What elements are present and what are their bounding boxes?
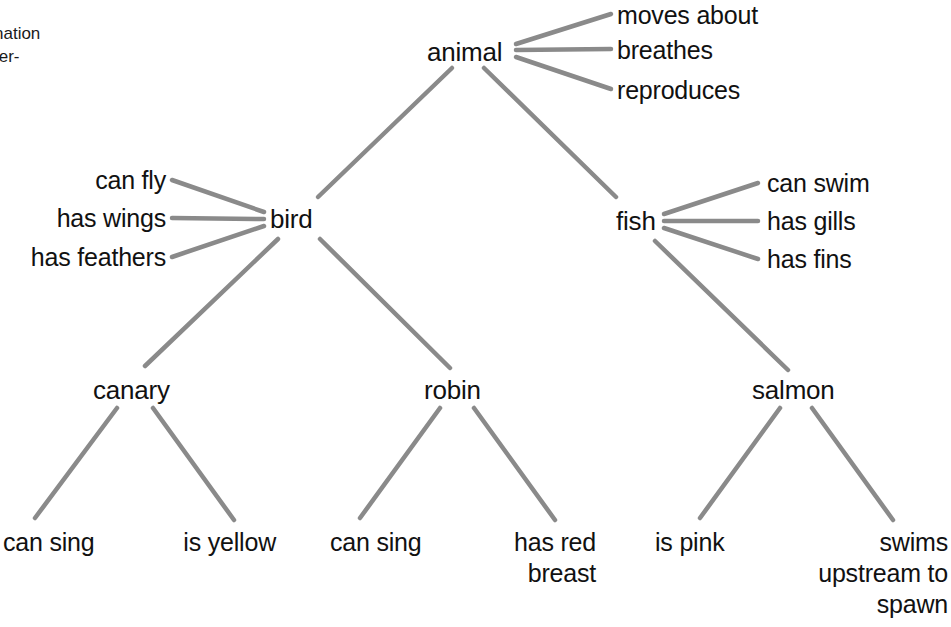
property-bird-has-wings: has wings [0,203,166,233]
property-canary-can-sing: can sing [3,527,123,558]
property-salmon-swims-upstream-to-spawn: swims upstream to spawn [790,527,948,620]
property-fish-has-gills: has gills [767,206,856,236]
property-animal-breathes: breathes [617,35,713,65]
node-canary[interactable]: canary [93,375,170,405]
property-bird-has-feathers: has feathers [0,242,166,272]
edge-animal-reproduces [516,57,611,89]
edge-salmon-swims-upstream [812,408,893,520]
property-bird-can-fly: can fly [0,165,166,195]
edge-bird-can-fly [172,180,264,212]
property-robin-can-sing: can sing [330,527,440,558]
edge-animal-moves-about [516,14,611,44]
property-canary-is-yellow: is yellow [150,527,276,558]
edge-canary-is-yellow [153,408,234,520]
edge-bird-has-wings [172,218,264,219]
edge-robin-has-red-breast [474,408,555,520]
property-salmon-is-pink: is pink [655,527,785,558]
node-salmon[interactable]: salmon [752,375,835,405]
margin-note-line-1: nation [0,22,40,45]
edge-salmon-is-pink [700,408,780,518]
edge-bird-robin [320,239,450,368]
property-fish-has-fins: has fins [767,244,852,274]
property-animal-reproduces: reproduces [617,75,740,105]
semantic-network-diagram: nation ter- animal moves about breathes … [0,0,951,627]
edge-canary-can-sing [35,408,117,518]
edge-animal-fish [484,68,616,197]
edge-fish-can-swim [664,183,758,214]
edge-animal-breathes [516,49,611,50]
node-animal[interactable]: animal [427,37,502,67]
edge-animal-bird [318,68,452,197]
property-animal-moves-about: moves about [617,0,758,30]
property-robin-has-red-breast: has red breast [470,527,596,589]
node-robin[interactable]: robin [424,375,481,405]
edge-robin-can-sing [360,408,440,518]
edge-bird-has-feathers [172,226,264,257]
margin-note-line-2: ter- [0,45,20,68]
node-bird[interactable]: bird [270,204,313,234]
node-fish[interactable]: fish [616,206,656,236]
property-fish-can-swim: can swim [767,168,870,198]
edge-fish-has-fins [664,228,758,259]
